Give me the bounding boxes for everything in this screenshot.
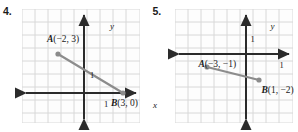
y-axis-label: y (271, 22, 275, 31)
point-label-b: B(1, −2) (262, 86, 294, 96)
problem-5: 5. (149, 0, 298, 132)
problem-number: 5. (153, 5, 161, 17)
problem-4: 4. (0, 0, 149, 132)
y-tick-label: 1 (90, 71, 94, 80)
point-coords-b: (3, 0) (117, 98, 138, 108)
point-label-b: B(3, 0) (111, 99, 138, 109)
point-coords-b: (1, −2) (268, 85, 294, 95)
x-tick-label: 1 (104, 100, 108, 109)
x-tick-label: 1 (280, 61, 284, 70)
point-label-a: A(−3, −1) (199, 60, 237, 70)
point-label-a: A(−2, 3) (47, 35, 79, 45)
point-coords-a: (−3, −1) (205, 59, 236, 69)
worksheet-page: 4. (0, 0, 297, 132)
y-tick-label: 1 (251, 35, 255, 44)
y-axis-label: y (110, 22, 114, 31)
coordinate-plane-5: y x 1 1 A(−3, −1) B(1, −2) (175, 9, 293, 123)
point-coords-a: (−2, 3) (53, 34, 79, 44)
problem-number: 4. (3, 5, 11, 17)
coordinate-plane-4: y x 1 1 A(−2, 3) B(3, 0) (22, 9, 140, 123)
